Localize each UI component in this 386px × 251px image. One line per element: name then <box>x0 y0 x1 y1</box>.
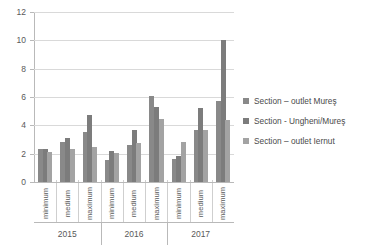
legend-label: Section – outlet Mureş <box>254 96 337 106</box>
category-axis-separator <box>123 183 124 223</box>
year-label: 2016 <box>101 223 168 245</box>
category-tick: medium <box>190 183 212 223</box>
category-label: minimum <box>41 187 50 218</box>
legend-item[interactable]: Section – outlet Mureş <box>243 96 385 106</box>
legend-item[interactable]: Section – outlet Iernut <box>243 136 385 146</box>
bar-groups <box>34 12 234 182</box>
chart-legend: Section – outlet MureşSection - Ungheni/… <box>243 96 385 156</box>
bar <box>47 152 52 182</box>
plot-area <box>34 12 234 182</box>
category-tick: medium <box>56 183 78 223</box>
legend-swatch-icon <box>243 118 249 124</box>
category-label: maximum <box>85 186 94 219</box>
category-axis-separator <box>167 183 168 223</box>
bar <box>225 120 230 182</box>
y-axis-tick-label: 8 <box>0 65 26 73</box>
bar-chart: 024681012 minimummediummaximumminimummed… <box>0 0 386 251</box>
bar <box>70 149 75 182</box>
bar <box>114 153 119 182</box>
year-label: 2015 <box>34 223 101 245</box>
category-axis-separator <box>56 183 57 223</box>
y-axis-tick-label: 4 <box>0 121 26 129</box>
year-axis-separator <box>101 223 102 245</box>
bar <box>203 130 208 182</box>
y-axis-tick-label: 6 <box>0 93 26 101</box>
category-label: minimum <box>107 187 116 218</box>
category-axis-separator <box>212 183 213 223</box>
year-label: 2017 <box>167 223 234 245</box>
y-axis-tick-label: 0 <box>0 178 26 186</box>
category-label: maximum <box>152 186 161 219</box>
legend-swatch-icon <box>243 138 249 144</box>
category-label: maximum <box>218 186 227 219</box>
year-axis-separator <box>167 223 168 245</box>
y-axis-tick-label: 2 <box>0 150 26 158</box>
legend-item[interactable]: Section - Ungheni/Mureş <box>243 116 385 126</box>
category-axis-separator <box>190 183 191 223</box>
y-axis-tick-label: 12 <box>0 8 26 16</box>
category-tick: medium <box>123 183 145 223</box>
bar <box>181 142 186 182</box>
category-label: medium <box>196 189 205 216</box>
category-tick: minimum <box>167 183 189 223</box>
bar <box>159 119 164 182</box>
category-tick: maximum <box>78 183 100 223</box>
category-label: medium <box>129 189 138 216</box>
category-axis: minimummediummaximumminimummediummaximum… <box>34 182 234 223</box>
category-tick: maximum <box>212 183 234 223</box>
bar <box>92 147 97 182</box>
category-axis-separator <box>101 183 102 223</box>
y-axis-tick-label: 10 <box>0 36 26 44</box>
year-axis: 201520162017 <box>34 222 234 245</box>
category-tick: minimum <box>34 183 56 223</box>
legend-label: Section - Ungheni/Mureş <box>254 116 345 126</box>
category-label: medium <box>63 189 72 216</box>
bar <box>136 143 141 182</box>
legend-label: Section – outlet Iernut <box>254 136 335 146</box>
category-axis-separator <box>145 183 146 223</box>
category-tick: maximum <box>145 183 167 223</box>
category-tick: minimum <box>101 183 123 223</box>
category-label: minimum <box>174 187 183 218</box>
legend-swatch-icon <box>243 98 249 104</box>
category-axis-separator <box>78 183 79 223</box>
